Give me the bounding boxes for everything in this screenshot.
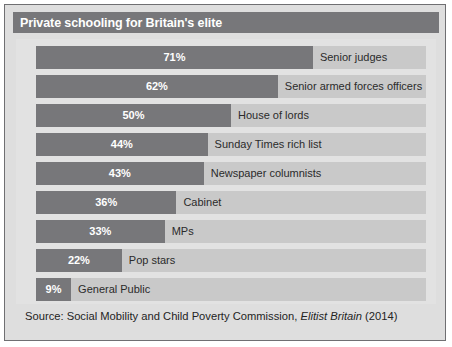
bar-category-label: General Public: [78, 278, 150, 301]
bar-row: 71%Senior judges: [36, 46, 426, 69]
bar-category-label: Senior armed forces officers: [285, 75, 422, 98]
bar-row: 50%House of lords: [36, 104, 426, 127]
bar-value-label: 71%: [163, 46, 185, 69]
bar-value-label: 22%: [68, 249, 90, 272]
bar-row: 22%Pop stars: [36, 249, 426, 272]
bar-row: 43%Newspaper columnists: [36, 162, 426, 185]
bar-row: 33%MPs: [36, 220, 426, 243]
bar-row: 44%Sunday Times rich list: [36, 133, 426, 156]
page-title: Private schooling for Britain's elite: [13, 16, 222, 30]
bar-row: 62%Senior armed forces officers: [36, 75, 426, 98]
bar-value-label: 33%: [89, 220, 111, 243]
bar-value-label: 62%: [146, 75, 168, 98]
source-note: Source: Social Mobility and Child Povert…: [25, 310, 397, 322]
bar-value-label: 43%: [109, 162, 131, 185]
source-publication: Elitist Britain: [300, 310, 362, 322]
bar-row: 9%General Public: [36, 278, 426, 301]
bar-category-label: Senior judges: [320, 46, 387, 69]
bar-category-label: Newspaper columnists: [211, 162, 322, 185]
bar-value-label: 50%: [122, 104, 144, 127]
bar-category-label: MPs: [172, 220, 194, 243]
bar-row: 36%Cabinet: [36, 191, 426, 214]
chart-plot-area: 71%Senior judges62%Senior armed forces o…: [16, 39, 436, 304]
bar-category-label: House of lords: [238, 104, 309, 127]
source-suffix: (2014): [362, 310, 397, 322]
bar-category-label: Sunday Times rich list: [215, 133, 322, 156]
bar-category-label: Pop stars: [129, 249, 175, 272]
bar-value-label: 36%: [95, 191, 117, 214]
bar-category-label: Cabinet: [183, 191, 221, 214]
chart-panel: Private schooling for Britain's elite 71…: [4, 4, 446, 341]
bar-value-label: 44%: [111, 133, 133, 156]
panel-title-bar: Private schooling for Britain's elite: [13, 12, 439, 33]
source-prefix: Source: Social Mobility and Child Povert…: [25, 310, 300, 322]
bar-value-label: 9%: [46, 278, 62, 301]
